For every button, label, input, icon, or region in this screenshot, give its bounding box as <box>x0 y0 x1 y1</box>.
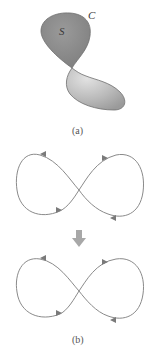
surface-lower-lobe <box>66 68 124 110</box>
curve-label: C <box>88 10 95 21</box>
panel-b-caption: (b) <box>72 335 84 345</box>
down-arrow-icon <box>72 230 86 247</box>
panel-a-caption: (a) <box>72 126 83 136</box>
figure-eight-curve <box>16 259 143 319</box>
figure-canvas <box>0 0 157 353</box>
arrow-icon <box>102 259 108 265</box>
figure-eight-top <box>16 154 143 216</box>
arrowheads-top <box>40 151 116 221</box>
figure-eight-bottom <box>16 259 143 319</box>
surface-label: S <box>59 26 65 37</box>
arrow-icon <box>56 207 62 213</box>
panel-a-surface <box>41 13 125 110</box>
arrowheads-bottom <box>40 255 116 323</box>
figure-eight-curve <box>16 154 143 216</box>
arrow-icon <box>56 310 62 316</box>
surface-upper-lobe <box>41 13 90 68</box>
